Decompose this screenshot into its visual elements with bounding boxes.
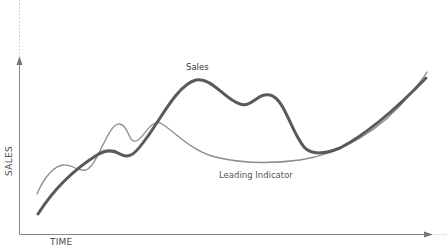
x-axis-label: TIME bbox=[50, 237, 72, 247]
x-axis-arrow-icon bbox=[424, 232, 433, 238]
y-axis-label: SALES bbox=[4, 146, 14, 176]
line-chart bbox=[0, 0, 448, 252]
y-axis-arrow-icon bbox=[17, 56, 23, 65]
sales-series-label: Sales bbox=[186, 62, 209, 72]
leading-indicator-label: Leading Indicator bbox=[219, 170, 293, 180]
sales-line bbox=[38, 78, 426, 214]
